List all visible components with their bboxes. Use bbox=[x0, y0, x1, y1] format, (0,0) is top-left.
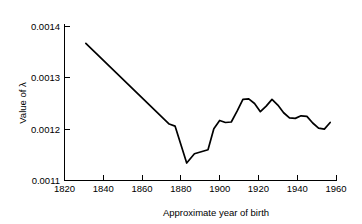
y-tick-label: 0.0013 bbox=[31, 72, 60, 83]
x-tick-label: 1900 bbox=[209, 183, 230, 194]
x-tick-label: 1920 bbox=[248, 183, 269, 194]
x-axis-ticks bbox=[65, 175, 337, 181]
y-tick-label: 0.0014 bbox=[31, 21, 60, 32]
y-axis-ticks bbox=[65, 27, 71, 181]
line-chart: 0.0014 0.0013 0.0012 0.0011 1820 1840 18… bbox=[0, 0, 362, 224]
y-axis-title: Value of λ bbox=[17, 82, 28, 124]
x-tick-label: 1940 bbox=[287, 183, 308, 194]
y-axis-tick-labels: 0.0014 0.0013 0.0012 0.0011 bbox=[31, 21, 60, 186]
data-series-line bbox=[86, 43, 330, 163]
x-tick-label: 1840 bbox=[93, 183, 114, 194]
x-tick-label: 1860 bbox=[132, 183, 153, 194]
y-tick-label: 0.0012 bbox=[31, 124, 60, 135]
chart-container: 0.0014 0.0013 0.0012 0.0011 1820 1840 18… bbox=[0, 0, 362, 224]
x-axis-title: Approximate year of birth bbox=[163, 207, 269, 218]
x-tick-label: 1880 bbox=[170, 183, 191, 194]
x-axis-tick-labels: 1820 1840 1860 1880 1900 1920 1940 1960 bbox=[54, 183, 347, 194]
x-tick-label: 1820 bbox=[54, 183, 75, 194]
x-tick-label: 1960 bbox=[325, 183, 346, 194]
